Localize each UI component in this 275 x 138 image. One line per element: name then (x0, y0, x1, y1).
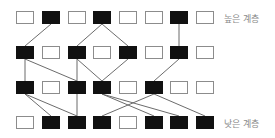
active-node (17, 47, 34, 59)
edge-line (25, 59, 77, 81)
layer-2 (17, 47, 214, 59)
inactive-node (197, 47, 214, 59)
edge-line (102, 59, 128, 81)
active-node (146, 82, 163, 94)
active-node (171, 47, 188, 59)
inactive-node (120, 12, 137, 24)
active-node (120, 47, 137, 59)
active-node (17, 82, 34, 94)
edge-line (102, 94, 179, 116)
active-node (197, 117, 214, 129)
edge-line (25, 94, 77, 116)
inactive-node (17, 12, 34, 24)
active-node (69, 117, 86, 129)
inactive-node (120, 117, 137, 129)
active-node (94, 12, 111, 24)
active-node (94, 82, 111, 94)
edge-line (25, 24, 51, 46)
active-node (69, 82, 86, 94)
inactive-node (120, 82, 137, 94)
edge-line (25, 94, 51, 116)
edge-line (77, 59, 102, 81)
active-node (43, 12, 60, 24)
active-node (171, 12, 188, 24)
inactive-node (146, 47, 163, 59)
edge-line (154, 59, 179, 81)
low-layer-label: 낮은 계층 (224, 117, 259, 130)
inactive-node (17, 117, 34, 129)
edge-line (77, 24, 102, 46)
layer-3 (17, 82, 214, 94)
edge-line (102, 24, 128, 46)
active-node (94, 117, 111, 129)
inactive-node (197, 82, 214, 94)
inactive-node (146, 12, 163, 24)
inactive-node (171, 82, 188, 94)
layer-4-bottom (17, 117, 214, 129)
inactive-node (69, 12, 86, 24)
active-node (171, 117, 188, 129)
connection-edges (25, 24, 205, 116)
edge-line (154, 94, 205, 116)
active-node (43, 117, 60, 129)
inactive-node (197, 12, 214, 24)
active-node (69, 47, 86, 59)
layer-1-top (17, 12, 214, 24)
inactive-node (43, 47, 60, 59)
high-layer-label: 높은 계층 (224, 12, 259, 25)
inactive-node (43, 82, 60, 94)
active-node (146, 117, 163, 129)
inactive-node (94, 47, 111, 59)
